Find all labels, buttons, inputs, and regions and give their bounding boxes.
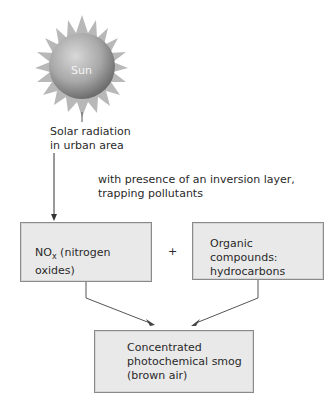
- smog-line-2: photochemical smog: [127, 355, 242, 369]
- solar-radiation-label: Solar radiation in urban area: [50, 125, 131, 153]
- smog-line-3: (brown air): [127, 369, 242, 383]
- nox-main: NO: [35, 246, 52, 259]
- sun-label: Sun: [71, 64, 92, 78]
- inversion-line-1: with presence of an inversion layer,: [98, 173, 295, 187]
- smog-line-1: Concentrated: [127, 341, 242, 355]
- nox-box: NOx (nitrogen oxides): [20, 222, 152, 282]
- organic-label: Organic compounds: hydrocarbons: [210, 237, 323, 279]
- inversion-line-2: trapping pollutants: [98, 187, 295, 201]
- smog-label: Concentrated photochemical smog (brown a…: [127, 341, 242, 383]
- organic-line-1: Organic compounds:: [210, 237, 323, 265]
- plus-sign: +: [168, 245, 177, 259]
- organic-line-2: hydrocarbons: [210, 265, 323, 279]
- smog-box: Concentrated photochemical smog (brown a…: [94, 330, 254, 393]
- nox-label: NOx (nitrogen oxides): [35, 246, 151, 278]
- solar-line-2: in urban area: [50, 139, 131, 153]
- solar-line-1: Solar radiation: [50, 125, 131, 139]
- inversion-layer-label: with presence of an inversion layer, tra…: [98, 173, 295, 201]
- organic-compounds-box: Organic compounds: hydrocarbons: [192, 222, 324, 280]
